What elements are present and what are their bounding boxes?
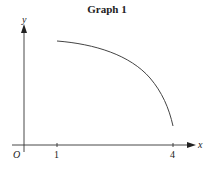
x-axis-arrow-icon xyxy=(187,142,196,148)
x-axis-label: x xyxy=(197,139,203,150)
y-axis-label: y xyxy=(21,14,27,25)
curve-series xyxy=(57,41,173,126)
y-axis-arrow-icon xyxy=(21,24,27,33)
graph-plot: y x O 1 4 xyxy=(0,0,214,169)
x-tick-label-1: 1 xyxy=(54,149,59,160)
x-tick-label-4: 4 xyxy=(170,149,175,160)
origin-label: O xyxy=(13,149,20,160)
